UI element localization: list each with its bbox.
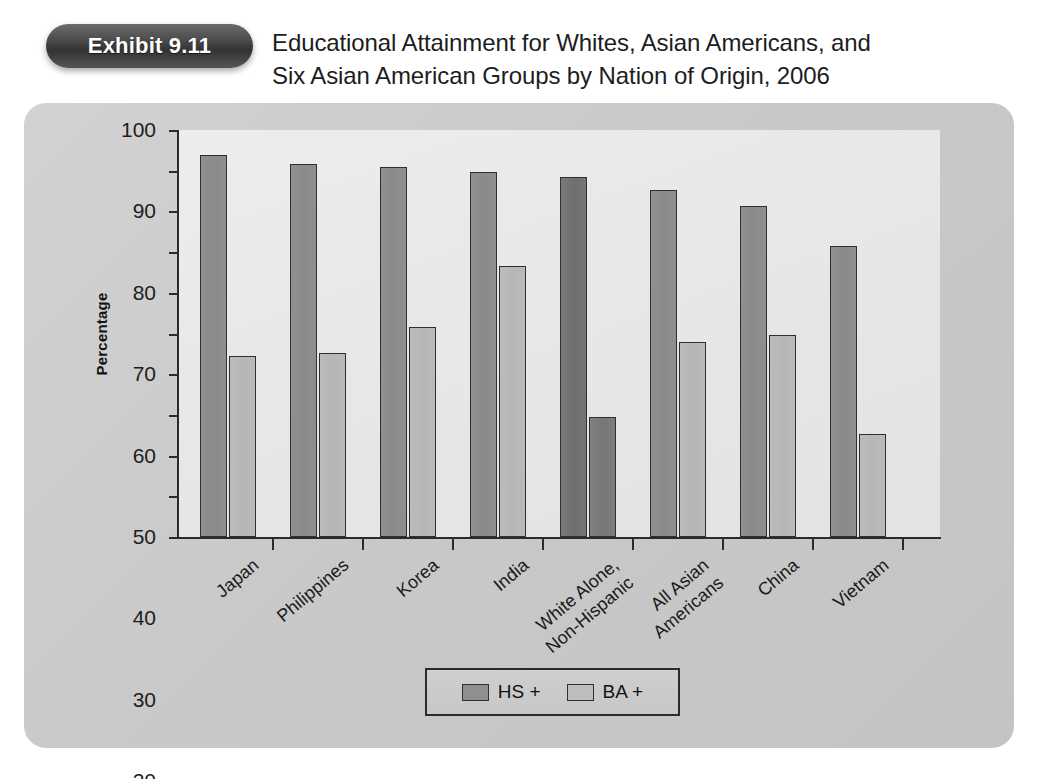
y-axis-tick-100: 100 xyxy=(169,130,178,132)
y-axis-tick-40: 40 xyxy=(169,374,178,376)
bar-hs-all-asian-americans xyxy=(650,190,677,537)
bar-ba-white-alone--non-hispanic xyxy=(589,417,616,537)
y-axis-tick-label-70: 70 xyxy=(133,362,156,386)
legend-swatch-icon xyxy=(462,684,489,701)
y-axis-tick-0: 0 xyxy=(169,537,178,539)
y-axis-tick-20: 20 xyxy=(169,456,178,458)
x-axis-tick-4 xyxy=(632,538,634,550)
x-axis-tick-7 xyxy=(902,538,904,550)
chart-legend: HS +BA + xyxy=(425,668,680,716)
y-axis-tick-label-40: 40 xyxy=(133,606,156,630)
legend-item-hs: HS + xyxy=(462,681,541,703)
exhibit-title-line-1: Educational Attainment for Whites, Asian… xyxy=(272,26,932,59)
x-axis-tick-1 xyxy=(362,538,364,550)
bar-hs-china xyxy=(740,206,767,537)
bar-ba-china xyxy=(769,335,796,537)
x-axis-tick-3 xyxy=(542,538,544,550)
x-axis-tick-5 xyxy=(722,538,724,550)
legend-item-ba: BA + xyxy=(567,681,644,703)
bar-ba-all-asian-americans xyxy=(679,342,706,537)
x-axis-line xyxy=(177,537,941,539)
exhibit-badge-label: Exhibit 9.11 xyxy=(88,33,211,59)
y-axis-tick-30: 30 xyxy=(169,415,178,417)
y-axis-tick-10: 10 xyxy=(169,496,178,498)
bar-ba-india xyxy=(499,266,526,537)
legend-label: HS + xyxy=(498,681,541,703)
exhibit-title: Educational Attainment for Whites, Asian… xyxy=(272,26,932,92)
bar-ba-japan xyxy=(229,356,256,537)
exhibit-badge: Exhibit 9.11 xyxy=(46,24,253,68)
bar-ba-korea xyxy=(409,327,436,537)
bar-hs-india xyxy=(470,172,497,537)
legend-swatch-icon xyxy=(567,684,594,701)
y-axis-tick-label-80: 80 xyxy=(133,281,156,305)
y-axis-tick-label-20: 20 xyxy=(133,769,156,779)
y-axis-title: Percentage xyxy=(93,292,110,375)
bar-hs-japan xyxy=(200,155,227,537)
bar-hs-white-alone--non-hispanic xyxy=(560,177,587,537)
bar-hs-vietnam xyxy=(830,246,857,537)
y-axis-tick-label-90: 90 xyxy=(133,199,156,223)
y-axis-tick-label-30: 30 xyxy=(133,688,156,712)
y-axis-tick-70: 70 xyxy=(169,252,178,254)
y-axis-tick-60: 60 xyxy=(169,293,178,295)
y-axis-tick-90: 90 xyxy=(169,171,178,173)
bar-ba-vietnam xyxy=(859,434,886,537)
legend-label: BA + xyxy=(603,681,644,703)
x-axis-tick-0 xyxy=(272,538,274,550)
y-axis-tick-label-60: 60 xyxy=(133,444,156,468)
x-axis-tick-6 xyxy=(812,538,814,550)
bar-ba-philippines xyxy=(319,353,346,537)
bar-hs-korea xyxy=(380,167,407,537)
y-axis-tick-80: 80 xyxy=(169,211,178,213)
y-axis-tick-label-50: 50 xyxy=(133,525,156,549)
y-axis-tick-50: 50 xyxy=(169,334,178,336)
exhibit-header: Exhibit 9.11 Educational Attainment for … xyxy=(0,0,1038,110)
x-axis-tick-2 xyxy=(452,538,454,550)
exhibit-title-line-2: Six Asian American Groups by Nation of O… xyxy=(272,59,932,92)
bar-chart-plot-area: Percentage 0102030405060708090100 JapanP… xyxy=(178,130,940,537)
y-axis-tick-label-100: 100 xyxy=(121,118,156,142)
bar-hs-philippines xyxy=(290,164,317,537)
